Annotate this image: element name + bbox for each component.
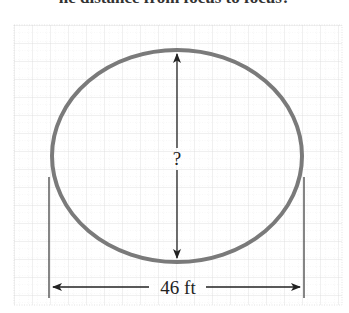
horizontal-dimension-label: 46 ft <box>160 277 196 298</box>
vertical-dimension-label: ? <box>173 148 181 169</box>
ellipse-diagram: ? 46 ft <box>0 0 349 313</box>
